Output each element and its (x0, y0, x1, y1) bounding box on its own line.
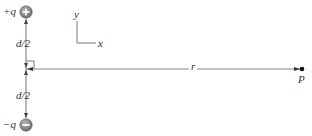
positive-charge-icon (20, 6, 32, 18)
positive-charge-label: +q (3, 6, 16, 17)
arrowhead-down-mid (24, 63, 28, 68)
dipole-diagram (0, 0, 312, 136)
lower-half-separation-label: d/2 (16, 90, 30, 101)
upper-half-separation-label: d/2 (16, 38, 30, 49)
arrowhead-left (27, 67, 33, 71)
x-axis-label: x (98, 38, 103, 49)
arrowhead-right (294, 67, 300, 71)
distance-label: r (189, 61, 197, 72)
negative-charge-label: −q (3, 119, 16, 130)
arrowhead-up-mid (24, 70, 28, 75)
arrowhead-up-upper (24, 19, 28, 24)
negative-charge-icon (20, 119, 32, 131)
arrowhead-down-lower (24, 113, 28, 118)
axis-indicator-icon (77, 21, 96, 43)
field-point-dot (300, 67, 305, 72)
field-point-label: P (298, 74, 305, 85)
y-axis-label: y (74, 9, 79, 20)
